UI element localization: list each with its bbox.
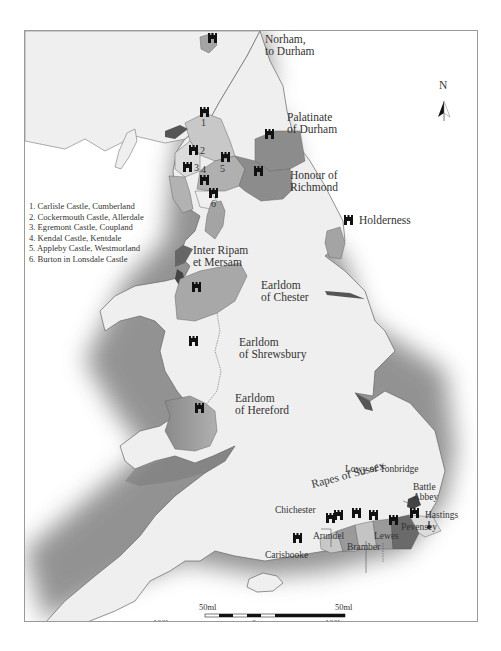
scale-miles-left: 50ml — [199, 602, 216, 612]
scale-bar-miles — [205, 614, 345, 617]
castle-icon-hereford — [195, 403, 204, 413]
north-arrow-icon — [438, 101, 450, 121]
castle-icon-norham — [208, 33, 217, 43]
castle-icon-kendal — [200, 175, 209, 185]
castle-icon-cockermouth — [189, 145, 198, 155]
map-frame: Norham, to Durham Palatinate of Durham H… — [24, 30, 478, 622]
label-hereford: Earldom of Hereford — [235, 392, 289, 416]
castle-number-6: 6 — [211, 198, 216, 209]
castle-icon-egremont — [183, 162, 192, 172]
north-label: N — [439, 79, 447, 91]
legend-item: 2. Cockermouth Castle, Allerdale — [29, 212, 144, 223]
castle-icon-richmond — [254, 166, 263, 176]
scale-km-left: 100km — [153, 618, 177, 622]
label-pevensey: Pevensey — [401, 523, 437, 533]
label-bramber: Bramber — [347, 543, 380, 553]
castle-icon-appleby — [221, 152, 230, 162]
region-palatinate — [255, 131, 305, 171]
label-arundel: Arundel — [313, 532, 344, 542]
castle-icon-lewes — [369, 510, 378, 520]
label-chester: Earldom of Chester — [261, 279, 309, 303]
castle-icon-chester — [192, 282, 201, 292]
land-isle-of-wight — [247, 573, 283, 592]
legend-item: 5. Appleby Castle, Westmorland — [29, 243, 144, 254]
castle-icon-carisbrooke — [293, 533, 302, 543]
castle-icon-burton — [209, 188, 218, 198]
castle-number-2: 2 — [200, 145, 205, 156]
label-shrewsbury: Earldom of Shrewsbury — [239, 336, 306, 360]
legend-item: 1. Carlisle Castle, Cumberland — [29, 201, 144, 212]
label-lewes: Lewes — [374, 532, 399, 542]
scale-miles-right: 50ml — [335, 602, 352, 612]
label-chichester: Chichester — [275, 506, 316, 516]
castle-icon-durham — [265, 129, 274, 139]
legend-item: 3. Egremont Castle, Coupland — [29, 222, 144, 233]
label-norham: Norham, to Durham — [265, 33, 315, 57]
legend-item: 4. Kendal Castle, Kentdale — [29, 233, 144, 244]
castle-number-4: 4 — [201, 164, 206, 175]
castle-number-1: 1 — [201, 117, 206, 128]
castle-icon-holderness — [344, 215, 353, 225]
castle-icon-hastings — [410, 508, 419, 518]
castle-number-5: 5 — [220, 163, 225, 174]
castle-icon-carlisle — [200, 107, 209, 117]
castle-legend: 1. Carlisle Castle, Cumberland 2. Cocker… — [29, 201, 144, 265]
castle-icon-bramber — [352, 508, 361, 518]
label-holderness: Holderness — [359, 214, 411, 226]
label-palatinate: Palatinate of Durham — [287, 111, 337, 135]
label-richmond: Honour of Richmond — [290, 169, 338, 193]
castle-icon-arundel — [334, 510, 343, 520]
scale-km-right: 100km — [325, 618, 349, 622]
label-hastings: Hastings — [425, 511, 458, 521]
label-battle-abbey: Battle Abbey — [413, 483, 438, 503]
castle-icon-pevensey — [389, 515, 398, 525]
map-canvas — [25, 31, 478, 622]
scale-km-zero: 0 — [252, 618, 256, 622]
label-carisbrooke: Carisbooke — [265, 551, 308, 561]
castle-icon-shrewsbury — [189, 336, 198, 346]
castle-number-3: 3 — [194, 162, 199, 173]
label-inter-ripam: Inter Ripam et Mersam — [193, 244, 248, 268]
legend-item: 6. Burton in Lonsdale Castle — [29, 254, 144, 265]
